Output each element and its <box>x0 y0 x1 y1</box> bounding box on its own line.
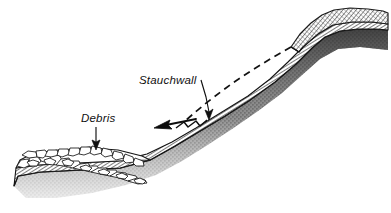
cross-section-canvas: Stauchwall Debris <box>0 0 391 213</box>
substrate-layer <box>14 29 388 198</box>
debris-label: Debris <box>81 112 115 124</box>
substrate-top-shading <box>14 29 388 198</box>
debris-label-group[interactable]: Debris <box>81 112 115 150</box>
movement-direction-arrow[interactable] <box>154 119 196 129</box>
stauchwall-label-group[interactable]: Stauchwall <box>139 74 213 120</box>
geological-cross-section-figure: Stauchwall Debris <box>0 0 391 213</box>
stauchwall-label: Stauchwall <box>139 74 197 86</box>
stauchwall-leader-line <box>201 80 209 112</box>
